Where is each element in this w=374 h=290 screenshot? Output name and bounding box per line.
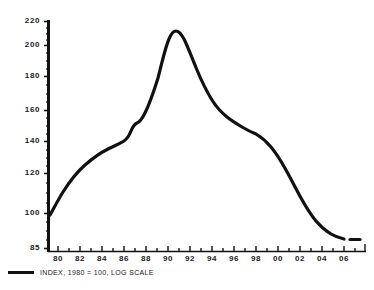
y-tick-label-220: 220 [8, 16, 40, 25]
y-tick-label-180: 180 [8, 71, 40, 80]
legend-line-swatch [8, 271, 34, 274]
legend-label: INDEX, 1980 = 100, LOG SCALE [40, 269, 154, 276]
x-tick-label-84: 84 [92, 254, 112, 263]
x-tick-label-90: 90 [158, 254, 178, 263]
x-tick-label-04: 04 [312, 254, 332, 263]
y-tick-label-100: 100 [8, 208, 40, 217]
x-tick-label-80: 80 [48, 254, 68, 263]
x-tick-label-82: 82 [70, 254, 90, 263]
x-tick-label-02: 02 [290, 254, 310, 263]
x-tick-label-94: 94 [202, 254, 222, 263]
x-tick-label-00: 00 [268, 254, 288, 263]
chart-legend: INDEX, 1980 = 100, LOG SCALE [8, 269, 154, 276]
y-tick-label-85: 85 [8, 243, 40, 252]
x-tick-label-96: 96 [224, 254, 244, 263]
y-tick-label-140: 140 [8, 136, 40, 145]
data-series-line [50, 31, 344, 239]
y-tick-label-200: 200 [8, 40, 40, 49]
y-tick-label-120: 120 [8, 168, 40, 177]
y-tick-label-160: 160 [8, 105, 40, 114]
x-tick-label-06: 06 [334, 254, 354, 263]
chart-figure: 220 200 180 160 140 120 100 85 80 82 84 … [0, 0, 374, 290]
chart-plot-area [0, 0, 374, 290]
x-tick-label-98: 98 [246, 254, 266, 263]
x-tick-label-88: 88 [136, 254, 156, 263]
x-tick-label-92: 92 [180, 254, 200, 263]
x-tick-label-86: 86 [114, 254, 134, 263]
